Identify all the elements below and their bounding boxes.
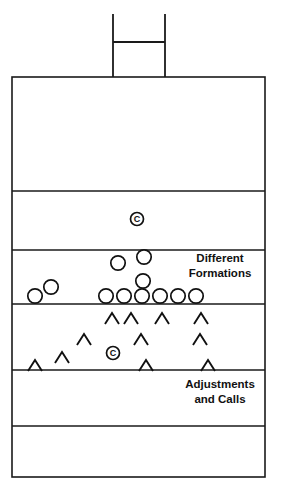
defense-player-7: [193, 334, 207, 345]
offense-player-markers: [28, 250, 203, 303]
defense-player-markers: [28, 313, 215, 371]
offense-player-6: [153, 289, 167, 303]
defense-player-1: [105, 313, 119, 324]
offense-player-8: [189, 289, 203, 303]
offense-player-2: [44, 280, 58, 294]
football-play-diagram: CC DifferentFormationsAdjustmentsand Cal…: [0, 0, 284, 490]
offense-player-1: [28, 289, 42, 303]
diagram-annotations: DifferentFormationsAdjustmentsand Calls: [185, 252, 255, 405]
offense-player-11: [137, 250, 151, 264]
offense-player-9: [136, 274, 150, 288]
adjustments-and-calls-label-line-2: and Calls: [194, 393, 245, 405]
center-marker-quarterback: C: [131, 213, 144, 226]
different-formations-label-line-2: Formations: [189, 267, 252, 279]
defense-player-3: [155, 313, 169, 324]
offense-player-5: [135, 289, 149, 303]
offense-player-7: [171, 289, 185, 303]
defense-player-6: [134, 334, 148, 345]
field-diagram-canvas: CC DifferentFormationsAdjustmentsand Cal…: [0, 0, 284, 490]
defense-player-5: [77, 334, 91, 345]
offense-player-4: [117, 289, 131, 303]
yard-lines: [12, 191, 265, 426]
defense-player-8: [55, 352, 69, 363]
adjustments-and-calls-label-line-1: Adjustments: [185, 378, 255, 390]
defense-player-2: [124, 313, 138, 324]
offense-player-3: [99, 289, 113, 303]
center-marker-quarterback-label: C: [134, 214, 141, 224]
different-formations-label-line-1: Different: [196, 252, 243, 264]
center-marker-defense: C: [107, 347, 120, 360]
adjustments-and-calls-label: Adjustmentsand Calls: [185, 378, 255, 405]
goalpost: [113, 14, 165, 77]
center-marker-defense-label: C: [110, 348, 117, 358]
defense-player-4: [194, 313, 208, 324]
offense-player-10: [111, 256, 125, 270]
different-formations-label: DifferentFormations: [189, 252, 252, 279]
